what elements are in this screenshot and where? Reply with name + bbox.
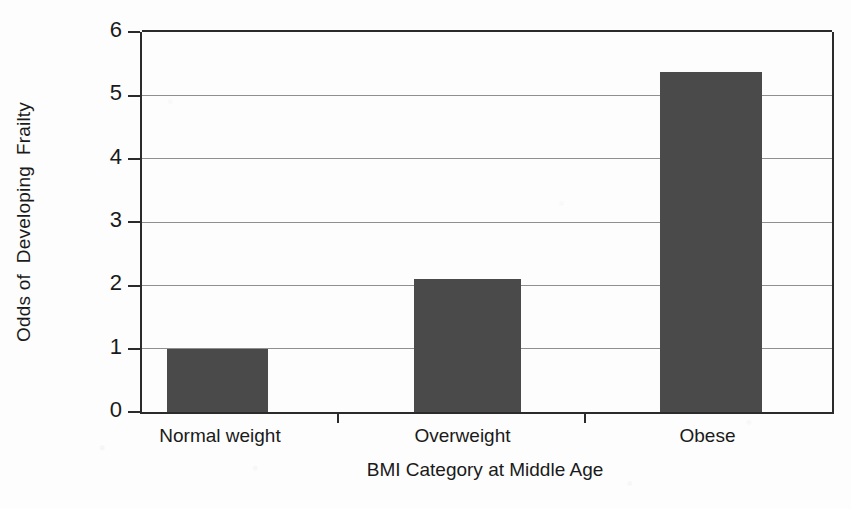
x-tick-mark-2: [584, 412, 586, 423]
plot-area: [140, 32, 834, 414]
y-tick-mark-1: [128, 348, 140, 350]
bar-normal-weight: [167, 349, 268, 412]
y-tick-mark-3: [128, 221, 140, 223]
y-tick-mark-5: [128, 95, 140, 97]
gridline-6: [142, 30, 832, 32]
x-tick-label-normal-weight: Normal weight: [110, 424, 330, 448]
y-axis-title: Odds of Developing Frailty: [8, 32, 40, 412]
bar-overweight: [414, 279, 521, 412]
y-tick-mark-4: [128, 158, 140, 160]
y-tick-label-6: 6: [88, 19, 122, 41]
y-tick-label-3: 3: [88, 209, 122, 231]
y-tick-mark-2: [128, 285, 140, 287]
y-tick-label-4: 4: [88, 146, 122, 168]
bar-obese: [660, 72, 762, 412]
y-tick-label-0: 0: [88, 399, 122, 421]
bar-chart-figure: Odds of Developing Frailty 0 1 2 3 4 5 6…: [0, 0, 851, 509]
x-tick-mark-1: [337, 412, 339, 423]
y-tick-label-5: 5: [88, 82, 122, 104]
x-tick-label-overweight: Overweight: [355, 424, 570, 448]
y-tick-label-2: 2: [88, 272, 122, 294]
x-axis-title: BMI Category at Middle Age: [140, 458, 830, 482]
x-tick-label-obese: Obese: [600, 424, 815, 448]
y-tick-mark-6: [128, 31, 140, 33]
y-tick-mark-0: [128, 411, 140, 413]
y-tick-label-1: 1: [88, 336, 122, 358]
